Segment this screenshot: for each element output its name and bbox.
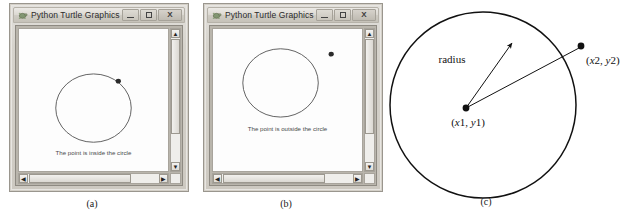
caption-a: (a): [72, 198, 112, 209]
window-title-b: Python Turtle Graphics: [225, 10, 314, 20]
scroll-left-arrow-b[interactable]: ◀: [213, 174, 222, 183]
close-button-a[interactable]: X: [158, 9, 182, 21]
titlebar-b[interactable]: Python Turtle Graphics X: [207, 7, 379, 23]
caption-b: (b): [266, 198, 306, 209]
window-title-a: Python Turtle Graphics: [31, 10, 120, 20]
outer-point-label: (x2, y2): [586, 54, 620, 67]
canvas-point-b: [329, 52, 334, 57]
vertical-scroll-thumb-a[interactable]: [171, 39, 180, 134]
canvas-point-a: [116, 79, 121, 84]
minimize-button-a[interactable]: [122, 9, 139, 21]
window-client-b: The point is outside the circle ▲ ▼ ◀ ▶: [209, 25, 377, 186]
horizontal-scroll-thumb-b[interactable]: [223, 174, 325, 183]
vertical-scrollbar-a[interactable]: ▲ ▼: [170, 28, 181, 172]
horizontal-scrollbar-a[interactable]: ◀ ▶: [18, 173, 169, 184]
scrollbar-corner-a: [170, 173, 181, 184]
circle-geometry-diagram: radius (x1, y1) (x2, y2): [388, 0, 626, 200]
canvas-message-b: The point is outside the circle: [248, 126, 328, 132]
scroll-down-arrow-b[interactable]: ▼: [365, 162, 374, 171]
canvas-circle-a: [56, 74, 131, 142]
scroll-up-arrow-b[interactable]: ▲: [365, 29, 374, 38]
window-controls-b: X: [315, 9, 378, 22]
window-controls-a: X: [121, 9, 184, 22]
scroll-right-arrow-b[interactable]: ▶: [353, 174, 362, 183]
horizontal-scroll-thumb-a[interactable]: [29, 174, 131, 183]
outer-point-dot: [578, 43, 585, 50]
close-button-b[interactable]: X: [352, 9, 376, 21]
scroll-right-arrow-a[interactable]: ▶: [159, 174, 168, 183]
scroll-up-arrow-a[interactable]: ▲: [171, 29, 180, 38]
turtle-icon: [17, 10, 28, 21]
figure-root: Python Turtle Graphics X The point is in…: [0, 0, 626, 222]
canvas-message-a: The point is inside the circle: [56, 150, 132, 156]
vertical-scrollbar-b[interactable]: ▲ ▼: [364, 28, 375, 172]
window-client-a: The point is inside the circle ▲ ▼ ◀ ▶: [15, 25, 183, 186]
maximize-button-b[interactable]: [334, 9, 351, 21]
diagram-main-circle: [390, 12, 576, 198]
horizontal-scrollbar-b[interactable]: ◀ ▶: [212, 173, 363, 184]
turtle-canvas-b[interactable]: The point is outside the circle: [212, 28, 363, 172]
scroll-down-arrow-a[interactable]: ▼: [171, 162, 180, 171]
maximize-button-a[interactable]: [140, 9, 157, 21]
radius-label: radius: [439, 53, 466, 65]
center-point-label: (x1, y1): [451, 116, 485, 129]
radius-arrow-line: [466, 43, 512, 108]
distance-line: [466, 48, 579, 108]
turtle-window-b[interactable]: Python Turtle Graphics X The point is ou…: [203, 3, 383, 192]
turtle-icon: [211, 10, 222, 21]
canvas-circle-b: [243, 49, 318, 117]
turtle-window-a[interactable]: Python Turtle Graphics X The point is in…: [9, 3, 189, 192]
vertical-scroll-thumb-b[interactable]: [365, 39, 374, 134]
caption-c: (c): [466, 196, 506, 207]
titlebar-a[interactable]: Python Turtle Graphics X: [13, 7, 185, 23]
turtle-canvas-a[interactable]: The point is inside the circle: [18, 28, 169, 172]
center-point-dot: [463, 105, 470, 112]
scroll-left-arrow-a[interactable]: ◀: [19, 174, 28, 183]
minimize-button-b[interactable]: [316, 9, 333, 21]
scrollbar-corner-b: [364, 173, 375, 184]
